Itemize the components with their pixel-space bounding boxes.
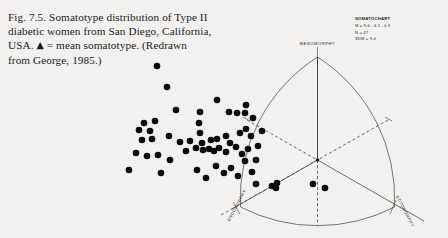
data-point [239, 151, 246, 158]
axis-endomorphy-dashed [318, 120, 389, 160]
tick-left-arc [243, 117, 250, 121]
data-point [221, 170, 228, 177]
legend-title: SOMATOCHART [355, 16, 391, 21]
data-point [214, 97, 221, 104]
data-point [235, 173, 242, 180]
data-point [199, 140, 206, 147]
figure-caption: Fig. 7.5. Somatotype distribution of Typ… [8, 10, 226, 67]
data-point [274, 180, 281, 187]
data-point [242, 110, 249, 117]
data-point [253, 157, 260, 164]
data-point [214, 136, 221, 143]
data-point [223, 149, 230, 156]
data-point [155, 152, 162, 159]
data-point [147, 128, 154, 135]
data-point [144, 153, 151, 160]
data-point [126, 167, 133, 174]
arc-right [318, 57, 395, 207]
data-point [183, 148, 190, 155]
data-point [149, 136, 156, 143]
data-point [193, 145, 200, 152]
data-point [197, 109, 204, 116]
data-point [177, 139, 184, 146]
axis-label-endomorphy: ENDOMORPHY [226, 189, 247, 223]
data-point [250, 115, 257, 122]
data-point [216, 145, 223, 152]
data-point [259, 128, 266, 135]
axis-ectomorphy-dashed [247, 120, 318, 160]
axis-label-ectomorphy: ECTOMORPHY [395, 195, 416, 228]
data-point [233, 144, 240, 151]
caption-line-1: Fig. 7.5. Somatotype distribution of Typ… [8, 10, 226, 24]
somatochart-legend: SOMATOCHART M = 9.6 - 6.1 - 0.9 N = 47 S… [355, 16, 391, 41]
data-point [226, 109, 233, 116]
axis-label-mesomorphy: MESOMORPHY [300, 41, 336, 46]
data-point [187, 138, 194, 145]
data-point [200, 147, 207, 154]
data-point [243, 126, 250, 133]
data-point [242, 158, 249, 165]
data-point [249, 169, 256, 176]
axis-ectomorphy-solid [318, 160, 404, 209]
data-point [136, 127, 143, 134]
data-point [139, 137, 146, 144]
mean-triangle-glyph: ▲ [36, 39, 43, 50]
data-point [196, 120, 203, 127]
data-point [164, 84, 171, 91]
caption-line-4: from George, 1985.) [8, 53, 226, 67]
data-point [208, 137, 215, 144]
data-point [152, 118, 159, 125]
data-point [228, 165, 235, 172]
data-point [237, 130, 244, 137]
data-point [141, 120, 148, 127]
data-point [253, 181, 260, 188]
data-point [194, 167, 201, 174]
caption-line-3: USA. ▲ = mean somatotype. (Redrawn [8, 38, 226, 52]
mean-somatotype-marker [316, 158, 319, 161]
data-point [158, 170, 165, 177]
data-point [245, 146, 252, 153]
caption-line-2: diabetic women from San Diego, Californi… [8, 24, 226, 38]
data-point [197, 130, 204, 137]
data-point [227, 140, 234, 147]
data-point [255, 143, 262, 150]
data-point [167, 157, 174, 164]
legend-sdm: SDM = 9.0 [355, 36, 376, 41]
legend-mean: M = 9.6 - 6.1 - 0.9 [355, 23, 391, 28]
figure-somatotype-chart: Fig. 7.5. Somatotype distribution of Typ… [0, 0, 448, 238]
data-point [213, 163, 220, 170]
legend-n: N = 47 [355, 30, 369, 35]
data-point [322, 185, 329, 192]
data-point [234, 110, 241, 117]
data-point [248, 133, 255, 140]
tick-right-arc [385, 117, 392, 121]
data-point [133, 150, 140, 157]
data-point [203, 175, 210, 182]
data-point [173, 107, 180, 114]
data-point [223, 133, 230, 140]
data-point [310, 181, 317, 188]
scatter-points-group [126, 63, 329, 192]
data-point [243, 102, 250, 109]
data-point [166, 133, 173, 140]
